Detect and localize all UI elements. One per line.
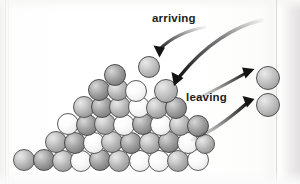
label-arriving: arriving — [152, 12, 196, 24]
arriving-arrow-1 — [154, 27, 206, 58]
label-leaving: leaving — [186, 91, 227, 103]
arriving-arrow-2 — [172, 20, 263, 86]
diagram-figure: arriving leaving — [0, 0, 300, 184]
arrow-layer — [0, 0, 300, 184]
